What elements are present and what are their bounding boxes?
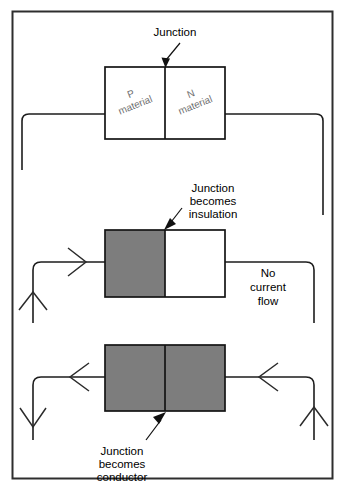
figure-root: P material N material Junction <box>0 0 347 492</box>
callout-junction-mid-line2: becomes <box>190 195 237 207</box>
note-no-current-line3: flow <box>258 295 279 307</box>
wire-mid-left <box>33 262 105 323</box>
panel-unbiased: P material N material Junction <box>22 26 323 215</box>
callout-junction-bot-line2: becomes <box>99 458 146 470</box>
note-no-current-line1: No <box>261 267 276 279</box>
pn-junction-diagram: P material N material Junction <box>0 0 347 492</box>
note-no-current-line2: current <box>250 281 287 293</box>
p-block-reverse <box>105 230 165 297</box>
callout-junction-bot-line1: Junction <box>101 445 144 457</box>
callout-junction-mid-line3: insulation <box>189 208 238 220</box>
wire-top-right <box>225 114 323 215</box>
callout-junction-mid-line1: Junction <box>192 182 235 194</box>
callout-junction-bot-line3: conductor <box>97 471 148 483</box>
wire-bot-right <box>225 377 314 440</box>
panel-reverse-biased: Junction becomes insulation No current f… <box>19 182 314 323</box>
wire-bot-left <box>33 377 105 440</box>
n-block-reverse <box>165 230 225 297</box>
junction-leader-top <box>166 43 180 60</box>
wire-top-left <box>22 114 105 170</box>
junction-arrowhead-bot <box>153 412 166 424</box>
junction-arrowhead-mid <box>164 218 176 230</box>
callout-junction-top: Junction <box>154 26 197 38</box>
panel-forward-biased: Junction becomes conductor <box>20 345 328 483</box>
